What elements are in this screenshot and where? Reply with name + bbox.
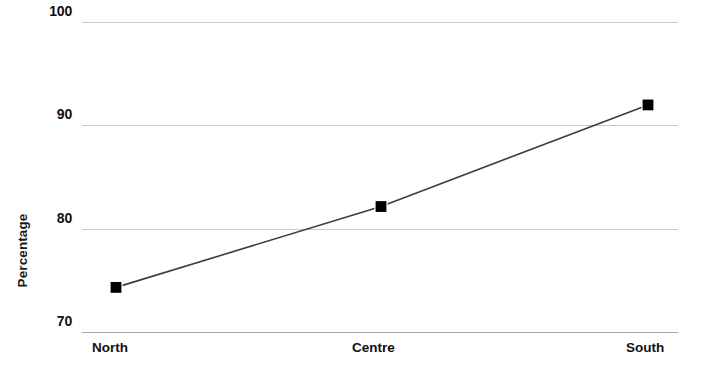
y-tick-label-70: 70: [26, 313, 72, 329]
x-tick-label-north: North: [92, 340, 128, 355]
series-line-percentage: [116, 105, 648, 287]
y-tick-label-100: 100: [26, 3, 72, 19]
x-tick-label-centre: Centre: [352, 340, 395, 355]
line-chart: Percentage 100 90 80 70 North Centre Sou…: [0, 0, 711, 384]
data-point-south: [642, 99, 654, 111]
y-tick-label-90: 90: [26, 106, 72, 122]
y-axis-title-label: Percentage: [15, 191, 30, 311]
x-tick-label-south: South: [626, 340, 664, 355]
series-canvas: [82, 22, 678, 333]
y-tick-label-80: 80: [26, 210, 72, 226]
plot-area: [82, 22, 678, 333]
data-point-centre: [375, 201, 387, 213]
data-point-north: [110, 281, 122, 293]
